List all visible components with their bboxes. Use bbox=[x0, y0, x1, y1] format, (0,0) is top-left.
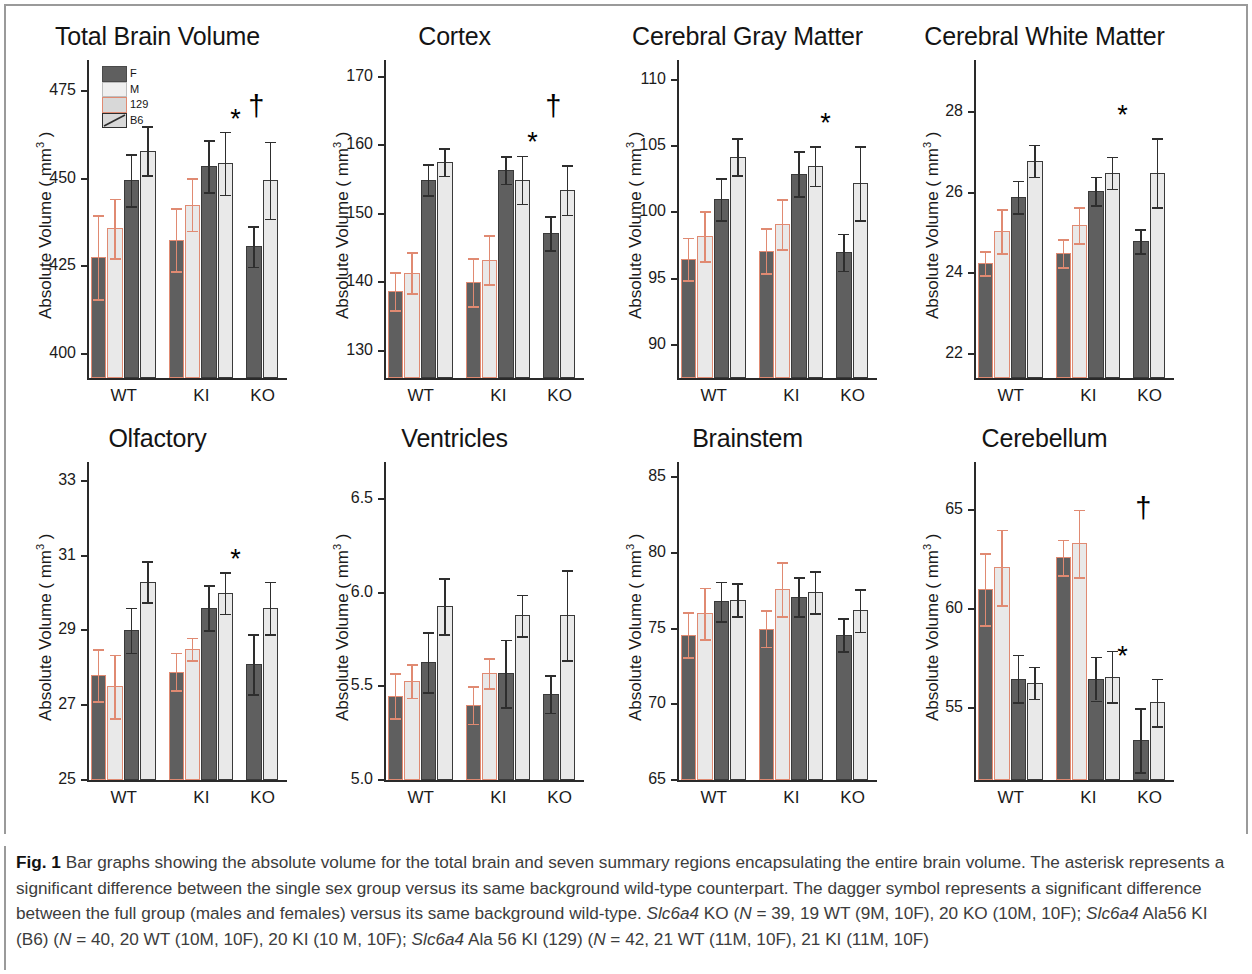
y-axis-line bbox=[384, 462, 386, 780]
y-axis-label: Absolute Volume ( mm3 ) bbox=[624, 533, 646, 721]
bar-ki-m-B6 bbox=[218, 593, 233, 780]
y-axis-tick-label: 65 bbox=[897, 500, 963, 518]
y-axis-line bbox=[384, 60, 386, 378]
x-axis-category-label: KO bbox=[1120, 386, 1180, 406]
asterisk-significance-marker: * bbox=[820, 110, 831, 137]
n-symbol: N bbox=[59, 929, 71, 949]
y-axis-tick bbox=[968, 509, 975, 511]
legend-label: B6 bbox=[130, 114, 143, 126]
panel-title: Cortex bbox=[307, 22, 602, 51]
dagger-significance-marker: † bbox=[248, 92, 264, 121]
legend-label: F bbox=[130, 67, 137, 79]
y-axis-line bbox=[974, 60, 976, 378]
y-axis-tick-label: 475 bbox=[10, 81, 76, 99]
y-axis-tick bbox=[671, 476, 678, 478]
bar-ki-f-129 bbox=[1056, 253, 1071, 378]
x-axis-category-label: KO bbox=[823, 788, 883, 808]
x-axis-category-label: WT bbox=[391, 788, 451, 808]
x-axis-category-label: KI bbox=[171, 386, 231, 406]
bar-wt-m-B6 bbox=[730, 600, 745, 780]
bar-ki-m-B6 bbox=[1105, 173, 1120, 378]
y-axis-label: Absolute Volume ( mm3 ) bbox=[921, 131, 943, 319]
y-axis-tick-label: 22 bbox=[897, 344, 963, 362]
panel-title: Ventricles bbox=[307, 424, 602, 453]
gene-name: Slc6a4 bbox=[412, 929, 465, 949]
y-axis-tick-label: 25 bbox=[10, 770, 76, 788]
x-axis-category-label: KO bbox=[233, 788, 293, 808]
y-axis-tick-label: 33 bbox=[10, 471, 76, 489]
panel-title: Cerebral Gray Matter bbox=[600, 22, 895, 51]
y-axis-tick-label: 400 bbox=[10, 344, 76, 362]
legend-label: M bbox=[130, 83, 139, 95]
y-axis-tick bbox=[968, 111, 975, 113]
y-axis-tick bbox=[81, 704, 88, 706]
bar-ki-f-B6 bbox=[201, 608, 216, 780]
y-axis-tick bbox=[81, 265, 88, 267]
bar-ki-m-129 bbox=[1072, 543, 1087, 780]
bar-ki-f-129 bbox=[1056, 557, 1071, 780]
y-axis-tick-label: 5.0 bbox=[307, 770, 373, 788]
x-axis-category-label: WT bbox=[981, 386, 1041, 406]
y-axis-tick-label: 28 bbox=[897, 102, 963, 120]
x-axis-line bbox=[87, 378, 287, 380]
y-axis-tick bbox=[671, 779, 678, 781]
gene-name: Slc6a4 bbox=[647, 903, 700, 923]
bar-ki-m-B6 bbox=[515, 615, 530, 780]
asterisk-significance-marker: * bbox=[1117, 102, 1128, 129]
y-axis-tick-label: 130 bbox=[307, 341, 373, 359]
x-axis-category-label: WT bbox=[391, 386, 451, 406]
y-axis-tick-label: 65 bbox=[600, 770, 666, 788]
chart-panel-cerebellum: Cerebellum556065Absolute Volume ( mm3 )W… bbox=[897, 410, 1192, 822]
y-axis-line bbox=[677, 60, 679, 378]
x-axis-line bbox=[974, 780, 1174, 782]
bar-ki-f-B6 bbox=[791, 174, 806, 378]
y-axis-label: Absolute Volume ( mm3 ) bbox=[921, 533, 943, 721]
y-axis-tick bbox=[81, 779, 88, 781]
y-axis-tick bbox=[378, 76, 385, 78]
panel-title: Total Brain Volume bbox=[10, 22, 305, 51]
n-symbol: N bbox=[739, 903, 751, 923]
bar-wt-m-B6 bbox=[437, 162, 452, 378]
y-axis-tick-label: 170 bbox=[307, 67, 373, 85]
y-axis-line bbox=[677, 462, 679, 780]
x-axis-category-label: KI bbox=[761, 386, 821, 406]
x-axis-category-label: WT bbox=[94, 386, 154, 406]
x-axis-category-label: KO bbox=[1120, 788, 1180, 808]
y-axis-tick bbox=[671, 552, 678, 554]
x-axis-category-label: KI bbox=[468, 788, 528, 808]
y-axis-tick bbox=[968, 192, 975, 194]
bar-wt-f-129 bbox=[978, 263, 993, 378]
plot-area bbox=[385, 462, 583, 780]
legend-swatch-b6-icon bbox=[102, 113, 127, 129]
bar-wt-f-B6 bbox=[421, 180, 436, 378]
bar-ki-m-129 bbox=[1072, 225, 1087, 378]
x-axis-line bbox=[384, 780, 584, 782]
y-axis-tick bbox=[671, 628, 678, 630]
bar-wt-m-B6 bbox=[140, 582, 155, 780]
plot-area bbox=[678, 60, 876, 378]
legend-label: 129 bbox=[130, 98, 148, 110]
y-axis-tick bbox=[378, 213, 385, 215]
chart-panel-cortex: Cortex130140150160170Absolute Volume ( m… bbox=[307, 8, 602, 420]
x-axis-category-label: WT bbox=[684, 386, 744, 406]
legend-swatch-f-icon bbox=[102, 66, 127, 82]
y-axis-tick bbox=[968, 353, 975, 355]
chart-panel-cerebral-white-matter: Cerebral White Matter22242628Absolute Vo… bbox=[897, 8, 1192, 420]
y-axis-tick bbox=[378, 350, 385, 352]
asterisk-significance-marker: * bbox=[230, 106, 241, 133]
asterisk-significance-marker: * bbox=[230, 546, 241, 573]
panel-title: Cerebral White Matter bbox=[897, 22, 1192, 51]
y-axis-tick bbox=[81, 629, 88, 631]
asterisk-significance-marker: * bbox=[1117, 643, 1128, 670]
x-axis-category-label: WT bbox=[94, 788, 154, 808]
figure-panel-grid: Total Brain Volume400425450475Absolute V… bbox=[0, 0, 1252, 838]
bar-ko-f-B6 bbox=[836, 635, 851, 780]
bar-ki-f-B6 bbox=[791, 597, 806, 780]
y-axis-tick bbox=[378, 144, 385, 146]
legend-swatch-129-icon bbox=[102, 97, 127, 113]
bar-wt-m-B6 bbox=[730, 157, 745, 378]
y-axis-tick bbox=[671, 344, 678, 346]
y-axis-tick-label: 90 bbox=[600, 335, 666, 353]
bar-wt-m-B6 bbox=[140, 151, 155, 378]
panel-title: Brainstem bbox=[600, 424, 895, 453]
